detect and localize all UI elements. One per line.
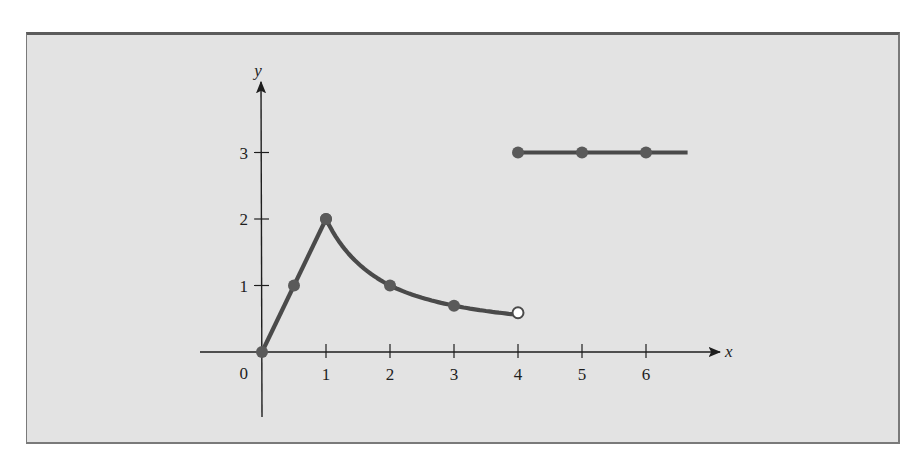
x-tick-label: 5 — [578, 365, 587, 384]
x-tick-label: 1 — [322, 365, 331, 384]
origin-label: 0 — [240, 364, 249, 383]
filled-point — [448, 300, 460, 312]
filled-point — [384, 280, 396, 292]
x-tick-label: 4 — [514, 365, 523, 384]
filled-point — [512, 147, 524, 159]
x-tick-label: 2 — [386, 365, 395, 384]
y-axis — [261, 82, 262, 417]
filled-point — [256, 346, 268, 358]
x-tick-label: 6 — [642, 365, 651, 384]
filled-point — [576, 147, 588, 159]
x-axis-label: x — [724, 342, 733, 361]
filled-point — [640, 147, 652, 159]
y-tick-label: 3 — [240, 144, 249, 163]
axis-labels: 1234561230xy — [240, 61, 734, 384]
filled-point — [320, 213, 332, 225]
x-tick-label: 3 — [450, 365, 459, 384]
data-series — [256, 147, 688, 359]
open-point — [513, 307, 524, 318]
y-tick-label: 2 — [240, 210, 249, 229]
y-tick-label: 1 — [240, 277, 249, 296]
y-axis-label: y — [252, 61, 262, 80]
chart-plot: 1234561230xy — [0, 0, 923, 468]
filled-point — [288, 280, 300, 292]
segment-2-curve — [326, 219, 518, 315]
